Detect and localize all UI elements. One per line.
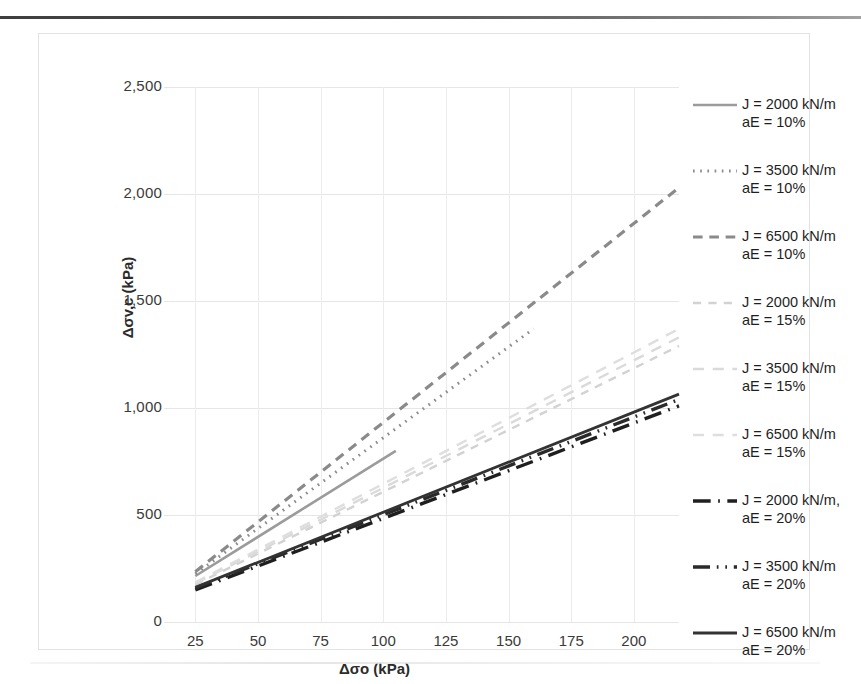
series-line <box>195 451 395 576</box>
legend-item[interactable]: J = 2000 kN/m, aE = 20% <box>692 490 844 534</box>
series-lines <box>164 87 679 622</box>
legend-item[interactable]: J = 2000 kN/m aE = 10% <box>692 94 844 138</box>
legend-item[interactable]: J = 6500 kN/m aE = 20% <box>692 622 844 666</box>
legend-item[interactable]: J = 2000 kN/m aE = 15% <box>692 292 844 336</box>
series-line <box>195 329 533 574</box>
x-axis-tick-label: 100 <box>353 632 413 649</box>
legend-item-label: J = 2000 kN/m aE = 15% <box>742 292 836 329</box>
legend-line-swatch <box>692 556 738 578</box>
legend-line-swatch <box>692 358 738 380</box>
legend-line-swatch <box>692 622 738 644</box>
x-axis-tick-label: 150 <box>479 632 539 649</box>
legend-item-label: J = 3500 kN/m aE = 10% <box>742 160 836 197</box>
y-axis-title: Δσv,c (kPa) <box>119 228 136 368</box>
x-axis-tick-label: 200 <box>604 632 664 649</box>
y-axis-tick-label: 2,000 <box>123 184 162 201</box>
legend-item-label: J = 2000 kN/m aE = 10% <box>742 94 836 131</box>
legend-item[interactable]: J = 3500 kN/m aE = 20% <box>692 556 844 600</box>
legend-item[interactable]: J = 6500 kN/m aE = 10% <box>692 226 844 270</box>
legend-line-swatch <box>692 94 738 116</box>
legend-item-label: J = 6500 kN/m aE = 15% <box>742 424 836 461</box>
y-axis-tick-label: 1,000 <box>123 398 162 415</box>
legend-line-swatch <box>692 226 738 248</box>
legend-item[interactable]: J = 3500 kN/m aE = 10% <box>692 160 844 204</box>
series-line <box>195 399 679 588</box>
legend-item-label: J = 2000 kN/m, aE = 20% <box>742 490 840 527</box>
gridline-horizontal <box>164 622 679 623</box>
y-axis-tick-label: 0 <box>153 612 162 629</box>
legend-item-label: J = 3500 kN/m aE = 20% <box>742 556 836 593</box>
legend-item-label: J = 3500 kN/m aE = 15% <box>742 358 836 395</box>
legend-item-label: J = 6500 kN/m aE = 10% <box>742 226 836 263</box>
x-axis-tick-label: 125 <box>416 632 476 649</box>
legend-line-swatch <box>692 490 738 512</box>
series-line <box>195 337 679 583</box>
y-axis-tick-label: 2,500 <box>123 77 162 94</box>
x-axis-tick-label: 25 <box>165 632 225 649</box>
legend-item[interactable]: J = 3500 kN/m aE = 15% <box>692 358 844 402</box>
legend-line-swatch <box>692 292 738 314</box>
series-line <box>195 406 679 590</box>
chart-legend: J = 2000 kN/m aE = 10%J = 3500 kN/m aE =… <box>692 80 844 674</box>
legend-line-swatch <box>692 424 738 446</box>
series-line <box>195 329 679 583</box>
scan-artifact-top-rule <box>0 16 861 19</box>
x-axis-tick-label: 50 <box>228 632 288 649</box>
chart-frame: 05001,0001,5002,0002,500 255075100125150… <box>38 33 810 650</box>
y-axis-tick-label: 500 <box>136 505 162 522</box>
series-line <box>195 346 679 585</box>
legend-item-label: J = 6500 kN/m aE = 20% <box>742 622 836 659</box>
x-axis-tick-label: 175 <box>541 632 601 649</box>
legend-line-swatch <box>692 160 738 182</box>
legend-item[interactable]: J = 6500 kN/m aE = 15% <box>692 424 844 468</box>
x-axis-tick-label: 75 <box>291 632 351 649</box>
series-line <box>195 394 679 587</box>
series-line <box>195 188 679 572</box>
scan-artifact-bottom-edge <box>30 662 820 664</box>
plot-area <box>164 87 679 622</box>
